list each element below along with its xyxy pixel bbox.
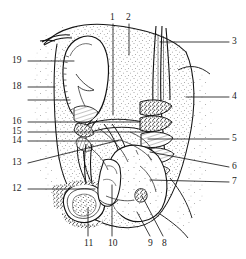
- callout-9-label: 9: [148, 239, 153, 249]
- callout-14-label: 14: [12, 136, 22, 146]
- callout-10-label: 10: [108, 239, 118, 249]
- callout-7-label: 7: [232, 177, 237, 187]
- callout-12-label: 12: [12, 184, 22, 194]
- callout-6-label: 6: [232, 162, 237, 172]
- illustration-canvas: [0, 0, 246, 259]
- callout-4-label: 4: [232, 92, 237, 102]
- callout-13-label: 13: [12, 158, 22, 168]
- callout-16-label: 16: [12, 117, 22, 127]
- callout-2-label: 2: [126, 13, 131, 23]
- callout-3-label: 3: [232, 37, 237, 47]
- callout-15-label: 15: [12, 127, 22, 137]
- callout-11-label: 11: [84, 239, 93, 249]
- callout-8-label: 8: [162, 239, 167, 249]
- callout-18-label: 18: [12, 82, 22, 92]
- callout-5-label: 5: [232, 134, 237, 144]
- callout-19-label: 19: [12, 56, 22, 66]
- anatomical-figure: 123456789101112131415161819: [0, 0, 246, 259]
- callout-1-label: 1: [110, 13, 115, 23]
